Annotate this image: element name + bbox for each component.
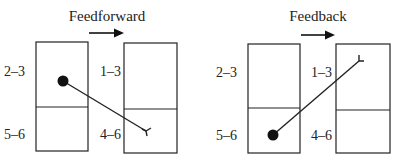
- right-arrow-icon: [301, 31, 335, 40]
- cell-body-dot-icon: [58, 76, 69, 87]
- panel-title: Feedforward: [69, 8, 146, 24]
- feedforward-panel: Feedforward 2–3 5–6 1–3 4–6: [4, 8, 177, 153]
- layer-label: 2–3: [216, 65, 237, 80]
- layer-label: 1–3: [100, 64, 121, 79]
- layer-label: 4–6: [311, 128, 332, 143]
- layer-label: 1–3: [311, 65, 332, 80]
- target-cortical-column: [124, 43, 177, 153]
- feedback-panel: Feedback 2–3 5–6 1–3 4–6: [216, 8, 390, 153]
- layer-label: 2–3: [4, 64, 25, 79]
- layer-label: 4–6: [100, 127, 121, 142]
- layer-label: 5–6: [216, 128, 237, 143]
- panel-title: Feedback: [289, 8, 347, 24]
- source-cortical-column: [36, 42, 88, 151]
- cell-body-dot-icon: [268, 130, 279, 141]
- right-arrow-icon: [89, 29, 124, 38]
- layer-label: 5–6: [4, 127, 25, 142]
